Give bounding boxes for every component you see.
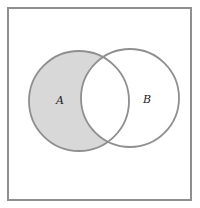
venn-diagram-figure: A B xyxy=(0,0,200,208)
venn-diagram-canvas: A B xyxy=(0,0,200,208)
set-a-label: A xyxy=(55,94,64,107)
set-b-label: B xyxy=(142,93,151,106)
